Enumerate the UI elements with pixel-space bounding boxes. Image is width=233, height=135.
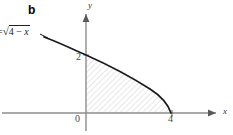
math-figure: b y x 2 4 0 =√4 − x <box>0 0 233 135</box>
figure-canvas <box>0 0 233 135</box>
radicand: 4 − x <box>9 25 30 37</box>
panel-label: b <box>28 4 35 16</box>
y-axis-label: y <box>88 1 92 10</box>
radicand-variable: x <box>24 26 28 37</box>
x-axis-label: x <box>223 107 227 116</box>
radicand-constant: 4 − <box>9 26 25 37</box>
y-tick-label-2: 2 <box>76 52 81 62</box>
curve-equation-label: =√4 − x <box>0 26 30 37</box>
origin-label: 0 <box>75 114 80 124</box>
x-tick-label-4: 4 <box>168 114 173 124</box>
shaded-region <box>86 55 172 113</box>
